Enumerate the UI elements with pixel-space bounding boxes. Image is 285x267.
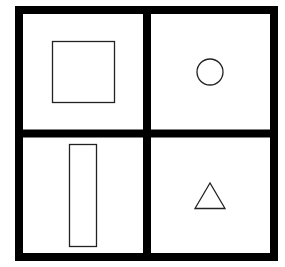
triangle-shape — [195, 183, 225, 209]
cell-bottom-right — [195, 183, 225, 209]
shape-grid-diagram — [0, 0, 285, 267]
cell-top-right — [197, 59, 223, 85]
cell-top-left — [53, 42, 115, 103]
circle-shape — [197, 59, 223, 85]
cell-bottom-left — [70, 145, 97, 247]
tall-rectangle-shape — [70, 145, 97, 247]
square-shape — [53, 42, 115, 103]
